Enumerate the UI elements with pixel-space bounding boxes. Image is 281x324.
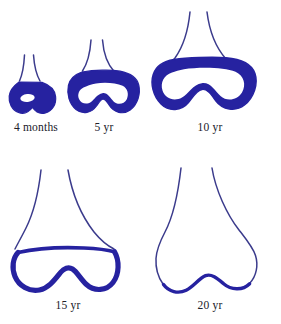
femur-shaft-outline-5-yr [83, 40, 92, 71]
cartilage-rim-15-yr [13, 252, 118, 291]
femur-5-yr-svg [66, 38, 144, 122]
femur-15-yr-svg [10, 166, 132, 298]
growth-plate-line-15-yr [18, 248, 115, 253]
femur-shaft-outline-right-4-months [34, 55, 41, 81]
stage-15-yr [10, 166, 132, 298]
femur-shaft-outline-right-15-yr [68, 170, 114, 249]
stage-label-5-yr: 5 yr [82, 122, 126, 134]
stage-label-4-months: 4 months [3, 122, 69, 134]
ossification-illustration: 4 months 5 yr 10 yr 15 yr [0, 0, 281, 324]
femur-shaft-outline-right-5-yr [103, 40, 115, 72]
femur-20-yr-svg [150, 166, 272, 298]
stage-20-yr [150, 166, 272, 298]
stage-5-yr [66, 38, 144, 122]
articular-margin-20-yr [164, 275, 250, 292]
femur-shaft-outline-4-months [20, 55, 25, 81]
femur-shaft-outline-15-yr [15, 170, 41, 249]
stage-10-yr [150, 10, 270, 122]
stage-label-15-yr: 15 yr [44, 300, 92, 312]
stage-label-20-yr: 20 yr [186, 300, 234, 312]
stage-label-10-yr: 10 yr [186, 122, 234, 134]
femur-4-months-svg [7, 52, 65, 122]
femur-outline-20-yr [156, 168, 257, 292]
stage-4-months [7, 52, 65, 122]
femur-10-yr-svg [150, 10, 270, 122]
